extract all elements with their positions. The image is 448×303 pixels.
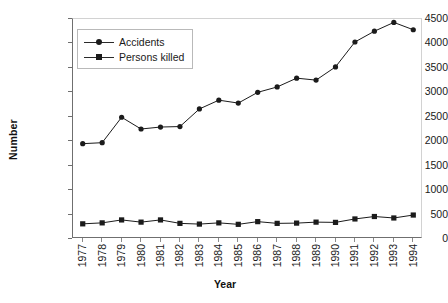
x-tick-label: 1986 bbox=[251, 244, 263, 267]
circle-marker-icon bbox=[275, 84, 280, 89]
circle-marker-icon bbox=[411, 27, 416, 32]
x-tick-mark bbox=[140, 238, 141, 242]
square-marker-icon bbox=[255, 219, 260, 224]
x-tick-label: 1983 bbox=[193, 244, 205, 267]
x-tick-mark bbox=[276, 238, 277, 242]
x-tick-mark bbox=[412, 238, 413, 242]
x-tick-label: 1990 bbox=[329, 244, 341, 267]
square-marker-icon bbox=[333, 220, 338, 225]
x-tick-mark bbox=[257, 238, 258, 242]
x-tick-mark bbox=[198, 238, 199, 242]
x-tick-mark bbox=[373, 238, 374, 242]
x-tick-mark bbox=[296, 238, 297, 242]
x-tick-mark bbox=[354, 238, 355, 242]
circle-marker-icon bbox=[333, 64, 338, 69]
y-tick-mark bbox=[68, 238, 72, 239]
circle-marker-icon bbox=[391, 20, 396, 25]
x-tick-label: 1988 bbox=[290, 244, 302, 267]
square-marker-icon bbox=[158, 217, 163, 222]
x-tick-label: 1987 bbox=[271, 244, 283, 267]
square-marker-icon bbox=[236, 222, 241, 227]
circle-marker-icon bbox=[255, 90, 260, 95]
square-marker-icon bbox=[352, 216, 357, 221]
square-marker-icon bbox=[138, 220, 143, 225]
circle-marker-icon bbox=[216, 98, 221, 103]
x-tick-mark bbox=[393, 238, 394, 242]
x-tick-label: 1991 bbox=[348, 244, 360, 267]
square-marker-icon bbox=[372, 214, 377, 219]
x-tick-mark bbox=[101, 238, 102, 242]
accidents-line-sample bbox=[84, 36, 114, 48]
circle-marker-icon bbox=[96, 39, 102, 45]
x-axis-title: Year bbox=[180, 278, 270, 290]
x-tick-label: 1984 bbox=[212, 244, 224, 267]
square-marker-icon bbox=[80, 221, 85, 226]
circle-marker-icon bbox=[80, 141, 85, 146]
x-tick-label: 1994 bbox=[407, 244, 419, 267]
square-marker-icon bbox=[197, 221, 202, 226]
y-axis-title: Number bbox=[2, 100, 24, 180]
legend-label-persons-killed: Persons killed bbox=[119, 51, 184, 63]
x-tick-mark bbox=[121, 238, 122, 242]
circle-marker-icon bbox=[372, 29, 377, 34]
square-marker-icon bbox=[391, 215, 396, 220]
circle-marker-icon bbox=[352, 39, 357, 44]
x-tick-mark bbox=[82, 238, 83, 242]
x-tick-mark bbox=[179, 238, 180, 242]
square-marker-icon bbox=[294, 221, 299, 226]
x-tick-label: 1993 bbox=[387, 244, 399, 267]
line-chart: Number 050010001500200025003000350040004… bbox=[0, 0, 448, 303]
square-marker-icon bbox=[275, 221, 280, 226]
x-tick-label: 1977 bbox=[76, 244, 88, 267]
square-marker-icon bbox=[216, 220, 221, 225]
x-tick-mark bbox=[237, 238, 238, 242]
square-marker-icon bbox=[177, 221, 182, 226]
x-tick-label: 1989 bbox=[310, 244, 322, 267]
x-tick-label: 1992 bbox=[368, 244, 380, 267]
circle-marker-icon bbox=[197, 106, 202, 111]
x-tick-label: 1978 bbox=[96, 244, 108, 267]
legend-item-accidents: Accidents bbox=[84, 34, 184, 49]
circle-marker-icon bbox=[294, 76, 299, 81]
square-marker-icon bbox=[411, 212, 416, 217]
chart-legend: Accidents Persons killed bbox=[77, 29, 193, 69]
x-tick-label: 1979 bbox=[115, 244, 127, 267]
series-line bbox=[83, 215, 414, 224]
circle-marker-icon bbox=[177, 124, 182, 129]
square-marker-icon bbox=[119, 217, 124, 222]
circle-marker-icon bbox=[313, 78, 318, 83]
persons-killed-line-sample bbox=[84, 51, 114, 63]
x-tick-label: 1982 bbox=[173, 244, 185, 267]
x-tick-mark bbox=[160, 238, 161, 242]
x-tick-mark bbox=[315, 238, 316, 242]
square-marker-icon bbox=[100, 220, 105, 225]
x-tick-mark bbox=[335, 238, 336, 242]
circle-marker-icon bbox=[236, 100, 241, 105]
x-tick-label: 1985 bbox=[232, 244, 244, 267]
x-tick-mark bbox=[218, 238, 219, 242]
legend-item-persons-killed: Persons killed bbox=[84, 49, 184, 64]
circle-marker-icon bbox=[138, 126, 143, 131]
square-marker-icon bbox=[96, 54, 102, 60]
series-persons-killed bbox=[80, 212, 416, 226]
circle-marker-icon bbox=[100, 140, 105, 145]
legend-label-accidents: Accidents bbox=[119, 36, 165, 48]
square-marker-icon bbox=[313, 220, 318, 225]
x-tick-label: 1981 bbox=[154, 244, 166, 267]
circle-marker-icon bbox=[119, 115, 124, 120]
x-tick-label: 1980 bbox=[135, 244, 147, 267]
circle-marker-icon bbox=[158, 124, 163, 129]
